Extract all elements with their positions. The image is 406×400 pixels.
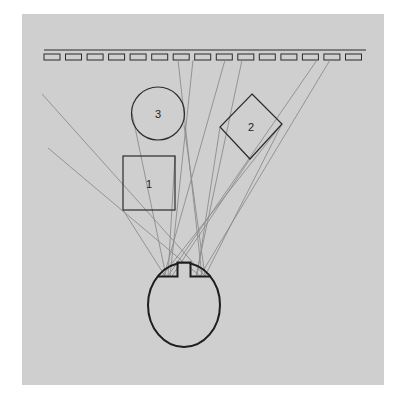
diagram-canvas: 3 1 2: [0, 0, 406, 400]
object-square-label: 1: [146, 178, 152, 190]
head-notch-fill: [179, 264, 190, 277]
object-diamond-label: 2: [248, 121, 254, 133]
diagram-background: [22, 14, 384, 385]
object-circle-label: 3: [155, 108, 161, 120]
